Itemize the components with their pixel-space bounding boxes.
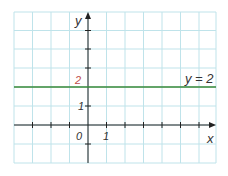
y-tick-label-2: 2 (74, 74, 81, 86)
coordinate-plane: x y 0 1 1 2 y = 2 (0, 0, 228, 176)
y-axis-arrow-icon (85, 12, 91, 19)
axes (14, 16, 212, 163)
x-axis-label: x (206, 131, 214, 146)
x-axis-arrow-icon (209, 122, 216, 128)
y-axis-label: y (74, 13, 83, 28)
x-tick-label-1: 1 (103, 130, 109, 142)
y-tick-label-1: 1 (78, 100, 84, 112)
origin-label: 0 (76, 130, 83, 142)
line-label: y = 2 (184, 71, 214, 86)
